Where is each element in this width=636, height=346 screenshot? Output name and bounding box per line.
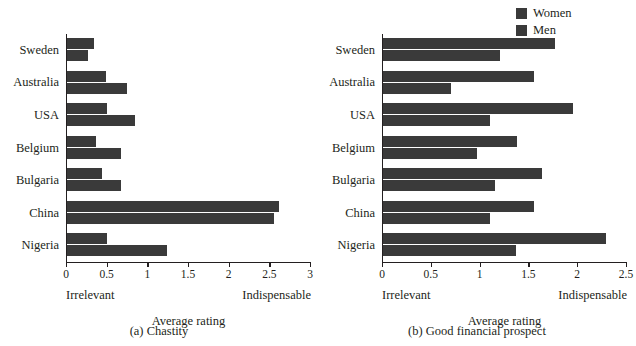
category-label: Bulgaria [2, 164, 64, 197]
bar-men [67, 213, 274, 224]
bar-men [383, 83, 451, 94]
bar-men [383, 213, 490, 224]
plot-wrap-b: SwedenAustraliaUSABelgiumBulgariaChinaNi… [318, 34, 636, 272]
bar-men [383, 148, 477, 159]
bar-men [67, 148, 121, 159]
bar-women [67, 233, 107, 244]
bar-men [383, 245, 516, 256]
chart-panel-chastity: SwedenAustraliaUSABelgiumBulgariaChinaNi… [0, 34, 318, 346]
category-label: China [2, 197, 64, 230]
bar-group [67, 102, 311, 131]
bar-women [383, 71, 534, 82]
bar-group [67, 70, 311, 99]
plot-wrap-a: SwedenAustraliaUSABelgiumBulgariaChinaNi… [0, 34, 318, 272]
category-axis-labels-b: SwedenAustraliaUSABelgiumBulgariaChinaNi… [318, 34, 380, 262]
category-label: Nigeria [318, 229, 380, 262]
chart-panel-financial-prospect: SwedenAustraliaUSABelgiumBulgariaChinaNi… [318, 34, 636, 346]
plot-area-b [382, 34, 627, 262]
bar-women [67, 38, 94, 49]
bar-women [383, 201, 534, 212]
category-axis-labels-a: SwedenAustraliaUSABelgiumBulgariaChinaNi… [2, 34, 64, 262]
plot-area-a [66, 34, 311, 262]
axis-high-label-b: Indispensable [558, 288, 627, 303]
axis-high-label-a: Indispensable [242, 288, 311, 303]
bar-men [67, 50, 88, 61]
bar-women [383, 136, 517, 147]
bar-men [67, 83, 127, 94]
panel-caption-a: (a) Chastity [0, 324, 318, 339]
bar-group [67, 37, 311, 66]
bar-women [67, 71, 106, 82]
category-label: USA [2, 99, 64, 132]
bar-women [383, 103, 573, 114]
bar-group [383, 135, 627, 164]
bar-men [383, 50, 500, 61]
bar-group [383, 37, 627, 66]
bar-women [67, 103, 107, 114]
bar-group [383, 102, 627, 131]
legend-label-women: Women [533, 7, 572, 20]
bar-women [67, 136, 96, 147]
bar-group [383, 70, 627, 99]
bar-men [67, 115, 135, 126]
bar-group [67, 135, 311, 164]
legend-swatch-icon [516, 8, 527, 19]
category-label: Nigeria [2, 229, 64, 262]
bar-group [383, 167, 627, 196]
bar-women [383, 38, 555, 49]
category-label: Bulgaria [318, 164, 380, 197]
bar-group [383, 200, 627, 229]
bar-women [383, 168, 542, 179]
bar-group [67, 200, 311, 229]
bar-men [67, 180, 121, 191]
bar-group [383, 232, 627, 261]
bar-women [383, 233, 606, 244]
category-label: Belgium [318, 132, 380, 165]
category-label: Australia [2, 67, 64, 100]
category-label: Australia [318, 67, 380, 100]
bar-group [67, 167, 311, 196]
bar-men [383, 180, 495, 191]
category-label: China [318, 197, 380, 230]
category-label: Sweden [2, 34, 64, 67]
bar-men [67, 245, 167, 256]
bar-women [67, 168, 102, 179]
bar-women [67, 201, 279, 212]
bar-men [383, 115, 490, 126]
legend-item-women: Women [516, 6, 572, 21]
axis-low-label-b: Irrelevant [382, 288, 431, 303]
category-label: Belgium [2, 132, 64, 165]
bar-group [67, 232, 311, 261]
axis-low-label-a: Irrelevant [66, 288, 115, 303]
category-label: Sweden [318, 34, 380, 67]
category-label: USA [318, 99, 380, 132]
panel-caption-b: (b) Good financial prospect [318, 324, 636, 339]
